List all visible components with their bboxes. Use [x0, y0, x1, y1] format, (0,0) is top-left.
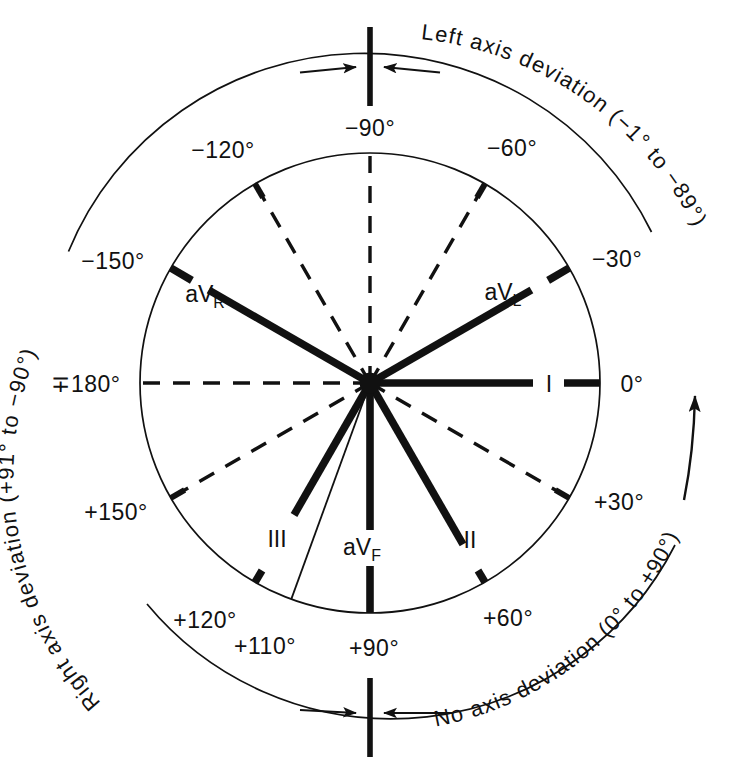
tick-minus-60 [477, 184, 485, 198]
tick-plus-150 [171, 490, 185, 498]
lead-vector-III [294, 383, 370, 515]
degree-label-plus-30: +30° [594, 489, 644, 515]
lead-label-aVR: aVR [185, 281, 225, 311]
degree-label-180: ∓180° [51, 371, 120, 397]
annotation-no-axis-deviation: No axis deviation (0° to +90°) [432, 527, 684, 732]
origin-node [360, 373, 381, 394]
lead-vector-II [370, 383, 463, 544]
lead-vectors-group [209, 290, 533, 544]
top-arrow-left [300, 67, 356, 73]
degree-label-plus-120: +120° [173, 607, 237, 633]
direction-arrow [684, 396, 695, 500]
lead-label-aVL: aVL [484, 279, 521, 309]
lead-label-II: II [464, 527, 477, 553]
degree-label-plus-150: +150° [84, 499, 148, 525]
degree-label-plus-60: +60° [483, 605, 533, 631]
degree-label-minus-150: −150° [81, 248, 145, 274]
lead-tick-III [255, 571, 262, 583]
degree-label-minus-30: −30° [592, 246, 642, 272]
lead-label-aVL-main: aV [484, 279, 513, 305]
degree-label-minus-60: −60° [487, 135, 537, 161]
lead-tick-aVR [171, 268, 192, 280]
lead-outer-ticks-group [171, 268, 600, 613]
annotation-no-axis-deviation-text: No axis deviation (0° to +90°) [432, 527, 684, 732]
annotation-right-axis-deviation-text: Right axis deviation (+91° to −90°) [0, 344, 105, 716]
tick-minus-120 [255, 184, 263, 198]
lead-label-I: I [546, 371, 552, 397]
annotation-right-axis-deviation: Right axis deviation (+91° to −90°) [0, 344, 105, 716]
degree-label-minus-90: −90° [345, 115, 395, 141]
diagram-canvas: −90° −120° −60° −150° −30° ∓180° 0° +150… [0, 0, 744, 773]
degree-label-minus-120: −120° [191, 137, 255, 163]
lead-tick-aVL [548, 268, 569, 280]
bottom-arrowheads-group [300, 678, 452, 757]
lead-label-aVF: aVF [343, 534, 381, 564]
lead-label-aVF-main: aV [343, 534, 372, 560]
lead-label-aVF-sub: F [371, 547, 381, 564]
lead-label-aVL-sub: L [513, 292, 522, 309]
tick-plus-30 [555, 490, 569, 498]
lead-tick-II [478, 571, 485, 583]
top-arrowheads-group [300, 27, 440, 106]
hexaxial-diagram: −90° −120° −60° −150° −30° ∓180° 0° +150… [0, 0, 744, 773]
degree-label-plus-90: +90° [349, 635, 399, 661]
lead-vector-aVR [209, 290, 370, 383]
lead-label-aVR-sub: R [213, 294, 225, 311]
top-arrow-right [384, 67, 440, 73]
degree-label-plus-110: +110° [234, 633, 296, 659]
lead-label-III: III [267, 526, 286, 552]
bottom-arrow-left [300, 710, 356, 713]
dashed-axes-group [140, 153, 569, 498]
degree-label-0: 0° [621, 371, 644, 397]
thin-ray-plus-110 [291, 383, 370, 599]
lead-label-aVR-main: aV [185, 281, 214, 307]
